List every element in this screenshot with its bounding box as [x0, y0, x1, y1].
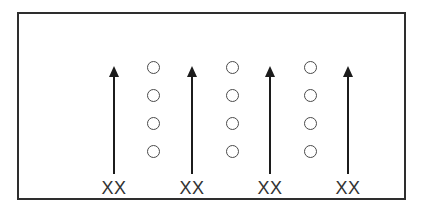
arrow-group-4: XX	[326, 66, 370, 200]
open-circle-icon	[226, 89, 239, 102]
arrow-shaft	[191, 76, 193, 174]
arrow-group-3: XX	[248, 66, 292, 200]
open-circle-icon	[147, 89, 160, 102]
up-arrow-icon	[92, 66, 136, 174]
open-circle-icon	[226, 117, 239, 130]
open-circle-icon	[147, 117, 160, 130]
open-circle-icon	[304, 89, 317, 102]
arrow-shaft	[269, 76, 271, 174]
arrow-label: XX	[248, 178, 292, 198]
arrow-label: XX	[170, 178, 214, 198]
arrow-group-1: XX	[92, 66, 136, 200]
circle-column-2	[226, 61, 239, 158]
open-circle-icon	[304, 117, 317, 130]
up-arrow-icon	[170, 66, 214, 174]
arrow-label: XX	[92, 178, 136, 198]
open-circle-icon	[304, 145, 317, 158]
circle-column-1	[147, 61, 160, 158]
open-circle-icon	[226, 61, 239, 74]
figure-frame: XX XX XX XX	[17, 12, 406, 200]
figure-canvas: XX XX XX XX	[0, 0, 423, 214]
up-arrow-icon	[248, 66, 292, 174]
open-circle-icon	[226, 145, 239, 158]
arrow-shaft	[347, 76, 349, 174]
circle-column-3	[304, 61, 317, 158]
up-arrow-icon	[326, 66, 370, 174]
open-circle-icon	[147, 145, 160, 158]
arrow-shaft	[113, 76, 115, 174]
open-circle-icon	[147, 61, 160, 74]
open-circle-icon	[304, 61, 317, 74]
arrow-group-2: XX	[170, 66, 214, 200]
arrow-label: XX	[326, 178, 370, 198]
